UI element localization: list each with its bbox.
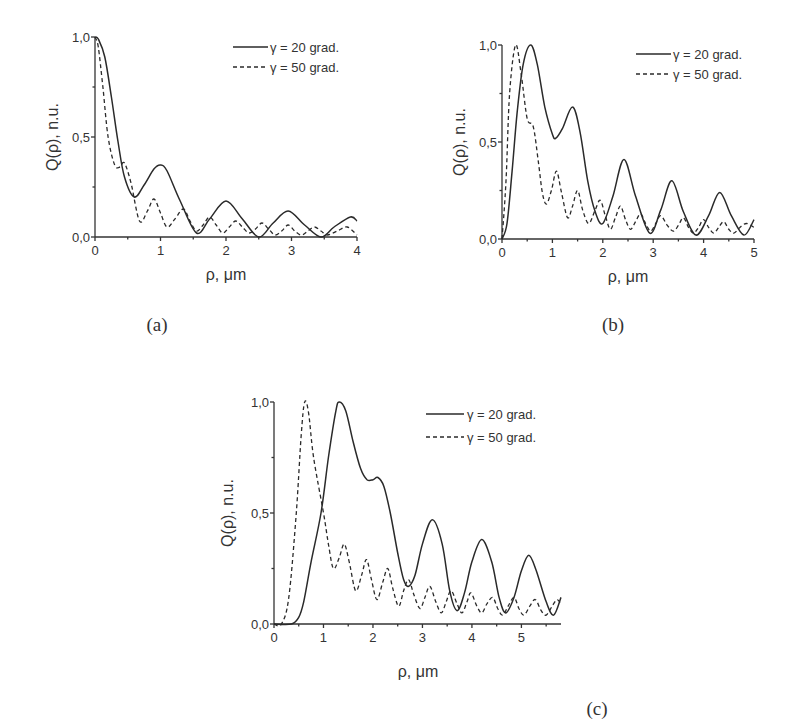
x-tick-label: 3 xyxy=(650,245,657,260)
legend-label-50: γ = 50 grad. xyxy=(673,67,742,82)
x-axis-title: ρ, μm xyxy=(608,268,649,285)
x-tick-label: 0 xyxy=(270,630,277,645)
y-axis-title: Q(ρ), n.u. xyxy=(451,108,468,176)
legend-label-50: γ = 50 grad. xyxy=(270,60,339,75)
x-tick-label: 5 xyxy=(750,245,757,260)
y-tick-label: 0,5 xyxy=(479,135,497,150)
legend: γ = 20 grad. γ = 50 grad. xyxy=(233,40,339,75)
x-tick-label: 1 xyxy=(320,630,327,645)
x-tick-label: 0 xyxy=(498,245,505,260)
y-axis-title: Q(ρ), n.u. xyxy=(219,479,236,547)
x-tick-label: 0 xyxy=(91,243,98,258)
x-tick-label: 4 xyxy=(353,243,360,258)
x-tick-label: 3 xyxy=(288,243,295,258)
panel-label: (b) xyxy=(602,314,624,336)
y-tick-label: 1,0 xyxy=(72,30,90,45)
x-tick-label: 5 xyxy=(518,630,525,645)
legend: γ = 20 grad. γ = 50 grad. xyxy=(636,47,742,82)
legend-label-20: γ = 20 grad. xyxy=(270,40,339,55)
x-axis-title: ρ, μm xyxy=(206,266,247,283)
figure: 012340,00,51,0 Q(ρ), n.u. ρ, μm γ = 20 g… xyxy=(0,0,785,728)
legend-label-50: γ = 50 grad. xyxy=(467,430,536,445)
x-tick-label: 1 xyxy=(157,243,164,258)
y-tick-label: 0,0 xyxy=(479,232,497,247)
x-tick-label: 3 xyxy=(419,630,426,645)
chart-c: 0123450,00,51,0 Q(ρ), n.u. ρ, μm γ = 20 … xyxy=(219,395,608,720)
x-tick-label: 2 xyxy=(599,245,606,260)
legend: γ = 20 grad. γ = 50 grad. xyxy=(426,407,536,445)
x-axis-title: ρ, μm xyxy=(398,663,439,680)
y-tick-label: 1,0 xyxy=(251,395,269,410)
legend-label-20: γ = 20 grad. xyxy=(673,47,742,62)
panel-label: (a) xyxy=(146,314,167,336)
x-tick-label: 2 xyxy=(369,630,376,645)
x-tick-label: 4 xyxy=(700,245,707,260)
x-tick-label: 2 xyxy=(222,243,229,258)
x-tick-label: 1 xyxy=(549,245,556,260)
panel-label: (c) xyxy=(586,698,607,720)
y-tick-label: 0,5 xyxy=(72,130,90,145)
legend-label-20: γ = 20 grad. xyxy=(467,407,536,422)
y-tick-label: 0,5 xyxy=(251,506,269,521)
x-tick-label: 4 xyxy=(468,630,475,645)
y-axis-title: Q(ρ), n.u. xyxy=(44,103,61,171)
chart-b: 0123450,00,51,0 Q(ρ), n.u. ρ, μm γ = 20 … xyxy=(451,38,758,336)
chart-a: 012340,00,51,0 Q(ρ), n.u. ρ, μm γ = 20 g… xyxy=(44,30,361,336)
y-tick-label: 1,0 xyxy=(479,38,497,53)
y-tick-label: 0,0 xyxy=(72,230,90,245)
y-tick-label: 0,0 xyxy=(251,617,269,632)
